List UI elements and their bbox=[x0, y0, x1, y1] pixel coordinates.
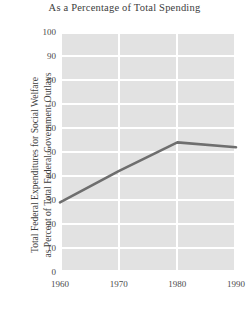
data-series-layer bbox=[60, 32, 236, 272]
x-tick-label: 1990 bbox=[216, 280, 249, 289]
y-tick-label: 90 bbox=[4, 52, 56, 61]
y-tick-label: 40 bbox=[4, 172, 56, 181]
x-tick-label: 1960 bbox=[40, 280, 80, 289]
y-tick-label: 60 bbox=[4, 124, 56, 133]
y-tick-label: 100 bbox=[4, 28, 56, 37]
y-tick-label: 20 bbox=[4, 220, 56, 229]
y-tick-label: 10 bbox=[4, 244, 56, 253]
y-tick-label: 70 bbox=[4, 100, 56, 109]
y-axis-tick-labels: 0102030405060708090100 bbox=[0, 0, 56, 316]
x-tick-label: 1980 bbox=[157, 280, 197, 289]
x-tick-label: 1970 bbox=[99, 280, 139, 289]
y-tick-label: 50 bbox=[4, 148, 56, 157]
chart-figure: As a Percentage of Total Spending Total … bbox=[0, 0, 249, 316]
plot-area bbox=[60, 32, 236, 272]
x-axis-tick-labels: 1960197019801990 bbox=[0, 280, 249, 296]
data-line-social-welfare bbox=[60, 142, 236, 202]
y-tick-label: 30 bbox=[4, 196, 56, 205]
y-tick-label: 0 bbox=[4, 268, 56, 277]
y-tick-label: 80 bbox=[4, 76, 56, 85]
